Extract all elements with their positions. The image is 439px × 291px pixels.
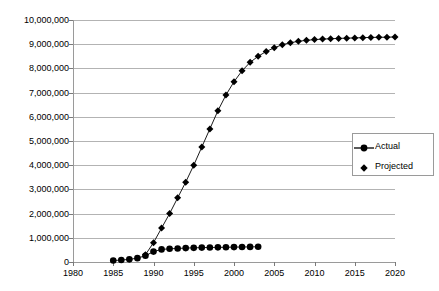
data-point bbox=[351, 34, 358, 41]
data-point bbox=[375, 34, 382, 41]
data-point bbox=[174, 245, 181, 252]
data-point bbox=[271, 44, 278, 51]
data-point bbox=[231, 78, 238, 85]
data-point bbox=[150, 239, 157, 246]
data-point bbox=[311, 36, 318, 43]
data-point bbox=[214, 107, 221, 114]
data-point bbox=[110, 257, 117, 264]
data-point bbox=[198, 144, 205, 151]
legend-marker-diamond-icon bbox=[353, 160, 375, 172]
data-point bbox=[335, 35, 342, 42]
data-point bbox=[199, 244, 206, 251]
data-point bbox=[174, 194, 181, 201]
data-point bbox=[392, 33, 399, 40]
data-point bbox=[319, 36, 326, 43]
data-point bbox=[182, 245, 189, 252]
data-point bbox=[190, 245, 197, 252]
chart-legend: Actual Projected bbox=[352, 133, 434, 176]
data-point bbox=[207, 244, 214, 251]
data-point bbox=[158, 225, 165, 232]
data-point bbox=[150, 248, 157, 255]
data-point bbox=[215, 244, 222, 251]
data-point bbox=[158, 246, 165, 253]
data-point bbox=[126, 256, 133, 263]
data-point bbox=[206, 125, 213, 132]
series-actual bbox=[110, 243, 261, 263]
data-point bbox=[247, 244, 254, 251]
data-point bbox=[166, 210, 173, 217]
legend-label-actual: Actual bbox=[375, 141, 400, 151]
data-point bbox=[255, 53, 262, 60]
legend-label-projected: Projected bbox=[375, 161, 413, 171]
data-point bbox=[118, 257, 125, 264]
data-point bbox=[295, 38, 302, 45]
data-point bbox=[263, 48, 270, 55]
data-point bbox=[279, 41, 286, 48]
data-point bbox=[343, 35, 350, 42]
data-point bbox=[287, 39, 294, 46]
legend-marker-circle-icon bbox=[353, 140, 375, 152]
data-point bbox=[166, 246, 173, 253]
data-point bbox=[190, 162, 197, 169]
data-point bbox=[359, 34, 366, 41]
data-point bbox=[239, 244, 246, 251]
data-point bbox=[222, 92, 229, 99]
chart-container: 10,000,0009,000,0008,000,0007,000,0006,0… bbox=[0, 0, 439, 291]
data-point bbox=[223, 244, 230, 251]
data-point bbox=[367, 34, 374, 41]
data-point bbox=[303, 37, 310, 44]
data-point bbox=[327, 35, 334, 42]
data-point bbox=[182, 179, 189, 186]
legend-item-actual[interactable]: Actual bbox=[353, 135, 433, 156]
data-point bbox=[383, 34, 390, 41]
legend-item-projected[interactable]: Projected bbox=[353, 155, 433, 176]
data-point bbox=[134, 255, 141, 262]
data-point bbox=[231, 244, 238, 251]
data-point bbox=[255, 243, 262, 250]
